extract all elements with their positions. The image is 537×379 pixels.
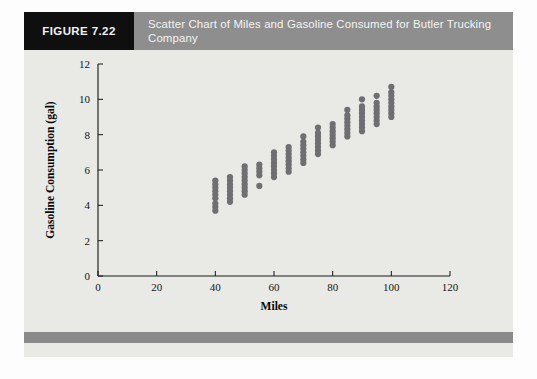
data-point xyxy=(344,107,350,113)
y-tick-label: 8 xyxy=(85,129,91,141)
figure-card: FIGURE 7.22 Scatter Chart of Miles and G… xyxy=(24,12,513,357)
data-point xyxy=(359,103,365,109)
y-tick-label: 4 xyxy=(85,199,91,211)
figure-header: FIGURE 7.22 Scatter Chart of Miles and G… xyxy=(24,12,513,50)
y-tick-label: 10 xyxy=(79,93,91,105)
data-point xyxy=(242,163,248,169)
scatter-chart: 020406080100120024681012MilesGasoline Co… xyxy=(24,50,513,319)
x-tick-label: 20 xyxy=(151,281,163,293)
figure-page: FIGURE 7.22 Scatter Chart of Miles and G… xyxy=(0,0,537,379)
y-tick-label: 12 xyxy=(79,58,90,70)
data-point xyxy=(286,144,292,150)
plot-body: 020406080100120024681012MilesGasoline Co… xyxy=(24,50,513,319)
figure-title: Scatter Chart of Miles and Gasoline Cons… xyxy=(148,17,498,46)
data-point xyxy=(330,121,336,127)
data-point xyxy=(300,133,306,139)
data-point xyxy=(374,100,380,106)
x-tick-label: 0 xyxy=(95,281,101,293)
figure-footer xyxy=(24,332,513,343)
data-point xyxy=(256,162,262,168)
figure-number-label: FIGURE 7.22 xyxy=(24,12,134,50)
x-tick-label: 80 xyxy=(327,281,339,293)
x-tick-label: 40 xyxy=(210,281,222,293)
x-tick-label: 100 xyxy=(383,281,400,293)
data-point xyxy=(212,178,218,184)
data-point xyxy=(388,89,394,95)
x-tick-label: 120 xyxy=(442,281,459,293)
data-point xyxy=(256,183,262,189)
data-point xyxy=(388,84,394,90)
data-point xyxy=(212,200,218,206)
data-point xyxy=(315,125,321,131)
y-tick-label: 2 xyxy=(85,235,91,247)
y-axis-title: Gasoline Consumption (gal) xyxy=(44,101,57,239)
data-point xyxy=(227,174,233,180)
data-point xyxy=(359,96,365,102)
data-point xyxy=(315,130,321,136)
data-point xyxy=(271,149,277,155)
y-tick-label: 6 xyxy=(85,164,91,176)
data-point-group xyxy=(212,84,394,214)
data-point xyxy=(344,112,350,118)
x-tick-label: 60 xyxy=(269,281,281,293)
y-tick-label: 0 xyxy=(85,270,91,282)
x-axis-title: Miles xyxy=(261,300,288,312)
data-point xyxy=(300,139,306,145)
data-point xyxy=(374,93,380,99)
figure-number-box: FIGURE 7.22 xyxy=(24,12,134,50)
